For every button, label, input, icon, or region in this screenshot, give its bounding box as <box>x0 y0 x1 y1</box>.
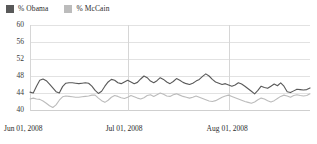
y-tick-label: 60 <box>4 21 24 29</box>
y-tick-label: 40 <box>4 106 24 114</box>
x-tick-label: Aug 01, 2008 <box>207 124 248 133</box>
x-tick-label: Jul 01, 2008 <box>106 124 143 133</box>
legend-label-obama: % Obama <box>18 5 48 13</box>
x-axis-labels: Jun 01, 2008Jul 01, 2008Aug 01, 2008 <box>0 124 317 138</box>
y-tick-label: 48 <box>4 72 24 80</box>
legend-label-mccain: % McCain <box>76 5 109 13</box>
legend-item-mccain[interactable]: % McCain <box>64 5 109 13</box>
plot-area <box>0 14 317 116</box>
y-tick-label: 44 <box>4 89 24 97</box>
legend-swatch-icon-obama <box>6 5 14 13</box>
y-tick-label: 56 <box>4 38 24 46</box>
plot-svg <box>0 14 317 116</box>
series-line-mccain <box>30 93 310 107</box>
y-tick-label: 52 <box>4 55 24 63</box>
x-tick-label: Jun 01, 2008 <box>4 124 43 133</box>
legend-swatch-icon-mccain <box>64 5 72 13</box>
poll-trend-chart: % Obama % McCain 605652484440 Jun 01, 20… <box>0 0 317 144</box>
legend-item-obama[interactable]: % Obama <box>6 5 48 13</box>
